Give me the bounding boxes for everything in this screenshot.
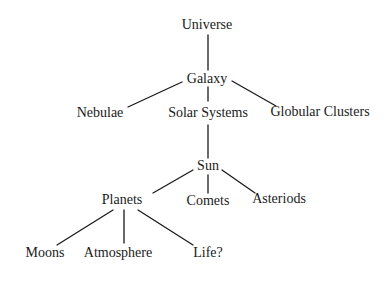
node-nebulae: Nebulae	[77, 106, 124, 120]
edge-galaxy-globular-clusters	[232, 81, 276, 106]
node-comets: Comets	[187, 194, 230, 208]
node-galaxy: Galaxy	[187, 72, 227, 86]
node-planets: Planets	[102, 193, 142, 207]
node-asteriods: Asteriods	[252, 192, 306, 206]
node-moons: Moons	[26, 246, 65, 260]
edge-sun-planets	[153, 170, 193, 193]
diagram-edges	[0, 0, 389, 285]
edge-planets-life	[138, 210, 193, 245]
node-solar-systems: Solar Systems	[168, 106, 248, 120]
edge-sun-asteriods	[222, 170, 255, 193]
node-globular-clusters: Globular Clusters	[270, 105, 369, 119]
node-sun: Sun	[197, 159, 219, 173]
edge-galaxy-nebulae	[128, 82, 182, 107]
hierarchy-diagram: Universe Galaxy Nebulae Solar Systems Gl…	[0, 0, 389, 285]
edge-planets-moons	[57, 210, 113, 245]
node-life: Life?	[193, 246, 223, 260]
node-atmosphere: Atmosphere	[84, 246, 152, 260]
node-universe: Universe	[182, 18, 233, 32]
